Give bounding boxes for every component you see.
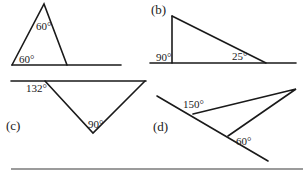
panel-c-label: (c)	[6, 118, 20, 133]
panel-c-bottom-angle: 90°	[88, 118, 103, 130]
panel-b: (b) 90° 25°	[150, 2, 296, 63]
panel-d-exterior-angle: 150°	[183, 98, 204, 110]
panel-d-label: (d)	[153, 119, 168, 134]
panel-b-right-angle: 90°	[156, 51, 171, 63]
panel-c: 132° 90° (c)	[6, 81, 146, 133]
panel-c-exterior-angle: 132°	[26, 82, 47, 94]
panel-b-label: (b)	[151, 2, 166, 17]
panel-a-apex-angle: 60°	[36, 20, 51, 32]
panel-b-acute-angle: 25°	[232, 50, 247, 62]
panel-d-triangle-sides	[193, 89, 296, 136]
panel-b-hypotenuse	[172, 16, 266, 63]
panel-d-long-line	[157, 96, 268, 161]
panel-a-base-angle: 60°	[19, 53, 34, 65]
panel-d: 150° 60° (d)	[153, 89, 296, 161]
geometry-figure: 60° 60° (b) 90° 25° 132° 90° (c) 150° 60…	[0, 0, 303, 171]
panel-a: 60° 60°	[12, 4, 121, 65]
panel-d-lower-angle: 60°	[236, 135, 251, 147]
